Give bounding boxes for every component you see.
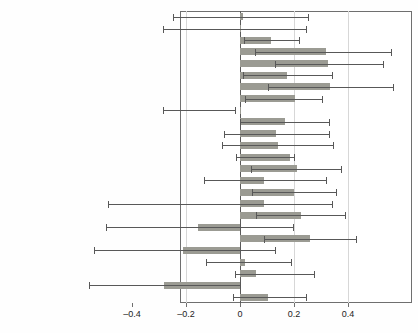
error-bar-cap-high [391,49,392,56]
error-bar-line [268,87,392,88]
error-bar-line [222,145,333,146]
error-bar-cap-low [252,189,253,196]
error-bar-line [233,297,306,298]
error-bar-line [244,40,299,41]
error-bar-line [204,180,327,181]
x-tick-2 [240,303,241,307]
error-bar-cap-low [236,154,237,161]
error-bar-cap-low [224,131,225,138]
error-bar-cap-low [255,49,256,56]
x-tick-label-4: 0.4 [342,309,355,319]
x-tick-0 [132,303,133,307]
error-bar-cap-high [326,177,327,184]
x-tick-label-1: –0.2 [177,309,195,319]
error-bar-line [94,250,275,251]
error-bar-cap-low [264,236,265,243]
error-bar-cap-low [251,166,252,173]
x-tick-3 [294,303,295,307]
error-bar-cap-low [233,294,234,301]
error-bar-cap-low [245,96,246,103]
error-bar-line [245,99,322,100]
x-tick-4 [348,303,349,307]
bar [240,107,241,114]
error-bar-cap-low [222,142,223,149]
x-tick-1 [186,303,187,307]
error-bar-line [243,75,332,76]
bar-chart-figure: BreyerGinsburgThomas**Souter**Kennedy***… [0,0,418,333]
error-bar-cap-high [329,131,330,138]
error-bar-cap-high [299,37,300,44]
error-bar-cap-high [293,224,294,231]
error-bar-line [255,52,391,53]
x-tick-label-0: –0.4 [123,309,141,319]
error-bar-line [163,29,306,30]
error-bar-cap-high [308,14,309,21]
error-bar-line [108,204,332,205]
x-tick-label-2: 0 [237,309,242,319]
gridline-4 [348,11,349,303]
error-bar-line [89,285,240,286]
error-bar-cap-high [333,142,334,149]
error-bar-cap-high [356,236,357,243]
error-bar-line [235,274,315,275]
error-bar-cap-low [204,177,205,184]
error-bar-cap-low [275,61,276,68]
error-bar-line [251,169,341,170]
error-bar-cap-high [306,294,307,301]
error-bar-cap-low [268,84,269,91]
error-bar-cap-high [322,96,323,103]
error-bar-line [264,239,356,240]
error-bar-cap-low [240,119,241,126]
error-bar-line [240,122,329,123]
error-bar-cap-low [89,282,90,289]
error-bar-cap-low [256,212,257,219]
error-bar-cap-high [341,166,342,173]
error-bar-line [106,227,292,228]
error-bar-line [275,64,383,65]
error-bar-cap-high [291,259,292,266]
error-bar-cap-high [235,107,236,114]
error-bar-cap-low [243,72,244,79]
error-bar-cap-high [393,84,394,91]
error-bar-cap-high [332,201,333,208]
error-bar-cap-low [206,259,207,266]
error-bar-cap-low [108,201,109,208]
error-bar-cap-high [332,72,333,79]
error-bar-cap-high [336,189,337,196]
error-bar-line [256,215,345,216]
error-bar-line [236,157,294,158]
error-bar-line [206,262,291,263]
error-bar-cap-low [94,247,95,254]
error-bar-cap-low [235,271,236,278]
error-bar-cap-low [244,37,245,44]
error-bar-cap-low [173,14,174,21]
error-bar-cap-high [294,154,295,161]
error-bar-cap-high [306,26,307,33]
gridline-1 [186,11,187,303]
error-bar-cap-low [163,26,164,33]
error-bar-cap-low [163,107,164,114]
error-bar-line [173,17,308,18]
error-bar-cap-low [106,224,107,231]
error-bar-cap-high [314,271,315,278]
error-bar-cap-high [383,61,384,68]
error-bar-cap-high [329,119,330,126]
error-bar-line [252,192,336,193]
error-bar-line [163,110,235,111]
error-bar-cap-high [240,282,241,289]
error-bar-cap-high [275,247,276,254]
error-bar-line [224,134,329,135]
error-bar-cap-high [345,212,346,219]
x-tick-label-3: 0.2 [288,309,301,319]
